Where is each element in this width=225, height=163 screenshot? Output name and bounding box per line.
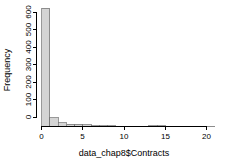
x-axis-title: data_chap8$Contracts <box>79 148 170 158</box>
y-tick-label-200: 200 <box>24 75 33 89</box>
x-tick-label-0: 0 <box>39 132 44 141</box>
y-axis-title: Frequency <box>2 48 12 91</box>
histogram-bar <box>50 118 58 127</box>
x-tick-label-10: 10 <box>120 132 129 141</box>
histogram-svg: Frequency 0 100 200 300 400 500 600 0 5 … <box>0 0 225 163</box>
histogram-bars <box>42 8 215 127</box>
x-tick-label-20: 20 <box>202 132 211 141</box>
histogram-bar <box>58 123 66 127</box>
y-tick-label-0: 0 <box>24 114 33 119</box>
x-tick-label-15: 15 <box>161 132 170 141</box>
x-tick-label-5: 5 <box>80 132 85 141</box>
y-tick-label-400: 400 <box>24 40 33 54</box>
histogram-plot: Frequency 0 100 200 300 400 500 600 0 5 … <box>0 0 225 163</box>
y-tick-label-300: 300 <box>24 57 33 71</box>
histogram-bar <box>207 126 215 127</box>
y-tick-label-500: 500 <box>24 22 33 36</box>
y-tick-label-600: 600 <box>24 5 33 19</box>
y-tick-label-100: 100 <box>24 92 33 106</box>
histogram-bar <box>42 8 50 126</box>
